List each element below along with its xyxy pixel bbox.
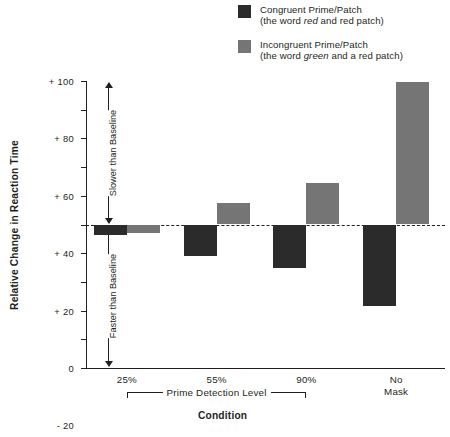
chart-figure: Congruent Prime/Patch (the word red and … xyxy=(0,0,450,437)
y-tick: - 20 xyxy=(81,253,86,254)
x-axis-group-label-line: 55% xyxy=(207,374,227,386)
y-tick: - 80 xyxy=(81,339,86,340)
legend-swatch-congruent xyxy=(238,5,251,18)
x-axis-group-label-3: NoMask xyxy=(384,374,408,397)
legend-label-congruent: Congruent Prime/Patch (the word red and … xyxy=(260,4,384,27)
legend-incongruent-pre: (the word xyxy=(260,50,304,61)
y-tick: - 40 xyxy=(81,282,86,283)
x-axis-group-label-line: 25% xyxy=(117,374,137,386)
y-tick-label: + 100 xyxy=(49,76,74,87)
arrow-down-icon xyxy=(105,218,113,224)
y-tick-label: + 60 xyxy=(54,190,74,201)
arrow-up-icon xyxy=(105,82,113,88)
bracket-left-tick xyxy=(127,392,128,398)
x-axis-line xyxy=(86,368,445,369)
y-tick-label: + 80 xyxy=(54,133,74,144)
y-tick: + 80 xyxy=(81,110,86,111)
x-axis-group-label-line: Mask xyxy=(384,386,408,398)
legend-label-congruent-line2: (the word red and red patch) xyxy=(260,15,384,26)
bar-incongruent-prime-patch-1 xyxy=(217,203,250,225)
bracket-right-tick xyxy=(305,392,306,398)
legend-label-incongruent-line1: Incongruent Prime/Patch xyxy=(260,39,403,50)
plot-area: + 100+ 80+ 60+ 40+ 200- 20- 40- 60- 80-1… xyxy=(86,81,445,368)
y-tick: -100 xyxy=(81,368,86,369)
y-tick: + 40 xyxy=(81,167,86,168)
bar-congruent-prime-patch-1 xyxy=(184,225,217,257)
legend-incongruent-post: and a red patch) xyxy=(329,50,403,61)
x-axis-group-label-1: 55% xyxy=(207,374,227,386)
bar-incongruent-prime-patch-3 xyxy=(396,82,429,224)
y-axis-title: Relative Change in Reaction Time xyxy=(9,140,20,310)
x-axis-group-label-2: 90% xyxy=(296,374,316,386)
bar-congruent-prime-patch-2 xyxy=(273,225,306,268)
legend-item-congruent: Congruent Prime/Patch (the word red and … xyxy=(238,4,446,27)
y-tick-label: + 20 xyxy=(54,305,74,316)
bar-incongruent-prime-patch-0 xyxy=(127,225,160,234)
y-tick: + 20 xyxy=(81,196,86,197)
bar-incongruent-prime-patch-2 xyxy=(306,183,339,225)
legend: Congruent Prime/Patch (the word red and … xyxy=(238,4,446,70)
y-tick: + 60 xyxy=(81,138,86,139)
x-axis-group-label-line: 90% xyxy=(296,374,316,386)
slower-than-baseline-label: Slower than Baseline xyxy=(106,110,120,196)
y-tick-label: + 40 xyxy=(54,248,74,259)
legend-congruent-pre: (the word xyxy=(260,15,304,26)
y-tick: + 100 xyxy=(81,81,86,82)
legend-label-incongruent: Incongruent Prime/Patch (the word green … xyxy=(260,39,403,62)
legend-swatch-incongruent xyxy=(238,40,251,53)
y-tick-label: 0 xyxy=(68,363,74,374)
legend-congruent-post: and red patch) xyxy=(318,15,384,26)
faster-than-baseline-label: Faster than Baseline xyxy=(106,254,120,338)
x-axis-title: Condition xyxy=(198,410,247,421)
arrow-down-icon xyxy=(105,361,113,367)
legend-label-incongruent-line2: (the word green and a red patch) xyxy=(260,50,403,61)
legend-item-incongruent: Incongruent Prime/Patch (the word green … xyxy=(238,39,446,62)
y-tick: - 60 xyxy=(81,311,86,312)
x-axis-group-label-line: No xyxy=(384,374,408,386)
y-tick-label: - 20 xyxy=(57,420,74,431)
legend-incongruent-italic: green xyxy=(304,50,329,61)
bracket-label: Prime Detection Level xyxy=(163,387,271,398)
bar-congruent-prime-patch-3 xyxy=(363,225,396,307)
legend-congruent-italic: red xyxy=(304,15,318,26)
legend-label-congruent-line1: Congruent Prime/Patch xyxy=(260,4,384,15)
bar-congruent-prime-patch-0 xyxy=(94,225,127,235)
x-axis-group-label-0: 25% xyxy=(117,374,137,386)
